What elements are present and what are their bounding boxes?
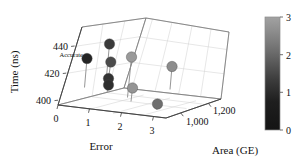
y-tick-1000: 1,000 xyxy=(186,116,209,127)
scatter3d-plot: 400 420 440 0 1 2 3 1,000 1,200 Time (ns… xyxy=(0,0,305,165)
y-axis-label: Area (GE) xyxy=(212,144,258,157)
colorbar: 3 2 1 0 xyxy=(265,12,291,136)
x-tick-2: 2 xyxy=(118,121,123,132)
colorbar-tick-0: 0 xyxy=(286,125,291,136)
data-point xyxy=(152,99,162,109)
z-tick-440: 440 xyxy=(53,41,68,52)
data-point xyxy=(82,53,92,63)
data-point xyxy=(103,80,113,90)
x-tick-0: 0 xyxy=(54,113,59,124)
data-point xyxy=(127,83,137,93)
data-point xyxy=(167,61,177,71)
x-axis-label: Error xyxy=(89,140,113,152)
annotation-accurate: Accurate xyxy=(60,51,84,58)
z-tick-420: 420 xyxy=(45,68,60,79)
z-axis-label: Time (ns) xyxy=(8,50,21,93)
z-tick-400: 400 xyxy=(36,95,51,106)
x-tick-1: 1 xyxy=(86,117,91,128)
data-point xyxy=(104,39,114,49)
colorbar-tick-2: 2 xyxy=(286,50,291,61)
data-point xyxy=(126,52,136,62)
chart-root: 400 420 440 0 1 2 3 1,000 1,200 Time (ns… xyxy=(0,0,305,165)
colorbar-tick-3: 3 xyxy=(286,12,291,23)
y-tick-1200: 1,200 xyxy=(213,105,236,116)
colorbar-tick-1: 1 xyxy=(286,87,291,98)
x-tick-3: 3 xyxy=(150,125,155,136)
data-point xyxy=(106,57,116,67)
